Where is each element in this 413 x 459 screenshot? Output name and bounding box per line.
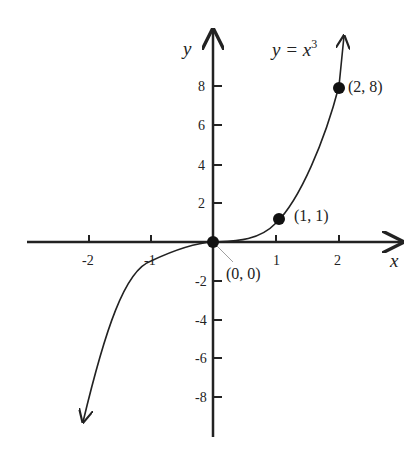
x-tick-label: -2 bbox=[82, 253, 94, 268]
y-tick-label: 8 bbox=[198, 79, 205, 94]
point-label-origin: (0, 0) bbox=[226, 265, 261, 283]
y-tick-label: -2 bbox=[195, 274, 207, 289]
y-tick-label: 4 bbox=[198, 158, 205, 173]
y-tick-label: -8 bbox=[195, 390, 207, 405]
point-label-2-8: (2, 8) bbox=[348, 78, 383, 96]
y-tick-label: 6 bbox=[198, 118, 205, 133]
y-tick-label: 2 bbox=[198, 196, 205, 211]
x-tick-label: 2 bbox=[334, 253, 341, 268]
x-tick-label: 1 bbox=[273, 253, 280, 268]
point-2-8 bbox=[333, 82, 345, 94]
cubic-function-graph: -2 -1 1 2 8 6 4 2 -2 -4 -6 -8 y x y = x3… bbox=[0, 0, 413, 459]
y-tick-label: -6 bbox=[195, 351, 207, 366]
curve-label: y = x3 bbox=[270, 37, 317, 60]
y-axis-label: y bbox=[181, 38, 192, 59]
point-label-1-1: (1, 1) bbox=[294, 207, 329, 225]
x-axis-label: x bbox=[389, 250, 399, 271]
point-origin bbox=[207, 236, 219, 248]
y-tick-label: -4 bbox=[195, 313, 207, 328]
point-1-1 bbox=[273, 213, 285, 225]
